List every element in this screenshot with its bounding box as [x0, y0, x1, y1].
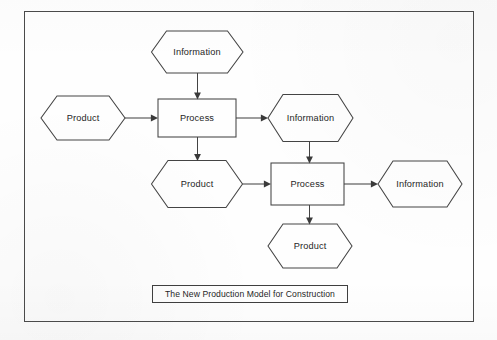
diagram-screenshot: Information Product Process Information … — [0, 0, 497, 340]
caption-text: The New Production Model for Constructio… — [165, 289, 335, 299]
arrowhead-down — [194, 92, 201, 99]
node-label: Process — [290, 179, 324, 189]
node-product-bottom[interactable]: Product — [268, 224, 352, 268]
edge-product-left-to-process-1 — [125, 115, 158, 122]
edge-process-1-to-information-middle — [236, 115, 268, 122]
edge-product-middle-to-process-2 — [243, 181, 272, 188]
arrowhead-down — [194, 154, 201, 161]
node-information-top[interactable]: Information — [152, 31, 244, 73]
node-label: Information — [396, 179, 444, 189]
node-product-left[interactable]: Product — [41, 96, 125, 140]
node-label: Information — [287, 113, 335, 123]
node-product-middle[interactable]: Product — [152, 161, 243, 208]
node-information-middle[interactable]: Information — [268, 95, 353, 142]
edge-information-middle-to-process-2 — [306, 142, 313, 164]
arrowhead-right — [264, 181, 271, 188]
arrowhead-right — [151, 115, 158, 122]
arrowhead-right — [371, 181, 378, 188]
edge-process-1-to-product-middle — [194, 137, 201, 161]
node-label: Product — [67, 113, 100, 123]
arrowhead-down — [306, 217, 313, 224]
arrowhead-down — [306, 156, 313, 163]
edge-process-2-to-product-bottom — [306, 205, 313, 225]
edge-process-2-to-information-right — [344, 181, 378, 188]
node-label: Product — [294, 241, 327, 251]
node-label: Process — [180, 113, 214, 123]
caption-box: The New Production Model for Constructio… — [152, 285, 348, 303]
edge-information-top-to-process-1 — [194, 73, 201, 100]
node-label: Information — [173, 47, 221, 57]
node-process-2[interactable]: Process — [271, 163, 344, 205]
node-information-right[interactable]: Information — [378, 161, 462, 207]
arrowhead-right — [261, 115, 268, 122]
node-process-1[interactable]: Process — [158, 99, 236, 137]
node-label: Product — [181, 179, 214, 189]
